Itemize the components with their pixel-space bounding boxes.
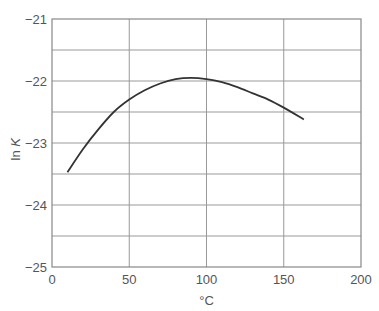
y-axis-ticks: −25−24−23−22−21 — [25, 12, 47, 275]
y-tick-label: −21 — [25, 12, 47, 27]
x-axis-ticks: 050100150200 — [48, 272, 371, 287]
x-tick-label: 100 — [196, 272, 218, 287]
y-axis-label-var: K — [8, 137, 23, 147]
grid-lines — [52, 19, 361, 267]
x-tick-label: 50 — [122, 272, 136, 287]
y-tick-label: −25 — [25, 260, 47, 275]
y-axis-label-prefix: ln — [8, 147, 23, 161]
y-tick-label: −24 — [25, 198, 47, 213]
x-tick-label: 0 — [48, 272, 55, 287]
y-tick-label: −23 — [25, 136, 47, 151]
y-tick-label: −22 — [25, 74, 47, 89]
x-tick-label: 150 — [273, 272, 295, 287]
x-axis-label: °C — [199, 293, 214, 308]
data-curve — [67, 78, 303, 172]
chart: 050100150200 −25−24−23−22−21 °C ln K — [0, 0, 379, 311]
y-axis-label: ln K — [8, 137, 23, 161]
x-tick-label: 200 — [350, 272, 372, 287]
